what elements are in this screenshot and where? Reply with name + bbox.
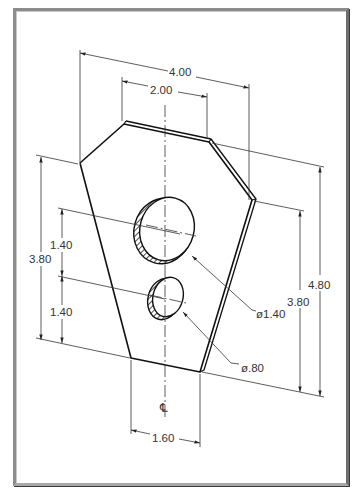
leader-large-hole: ø1.40 [192, 256, 285, 320]
dimension-left-1-40-lower: 1.40 [50, 276, 165, 343]
leader-small-hole: ø.80 [183, 312, 264, 374]
centerline-symbol: ℄ [159, 401, 168, 415]
dim-text-1-60: 1.60 [152, 432, 174, 444]
dim-text-1-40-lower: 1.40 [50, 306, 72, 318]
dim-text-dia-0-80: ø.80 [241, 362, 264, 374]
dimension-left-3-80: 3.80 [29, 155, 130, 358]
dim-text-right-3-80: 3.80 [287, 296, 309, 308]
dim-text-left-3-80: 3.80 [29, 253, 51, 265]
part-drawing: 4.00 2.00 3.80 1.40 1.40 3.80 [0, 0, 359, 497]
dimension-right-4-80: 4.80 [202, 143, 330, 397]
dim-text-dia-1-40: ø1.40 [256, 308, 285, 320]
dim-text-1-40-upper: 1.40 [50, 239, 72, 251]
dim-text-4-80: 4.80 [308, 279, 330, 291]
dim-text-4-00: 4.00 [169, 66, 191, 78]
dim-text-2-00: 2.00 [150, 84, 172, 96]
dimension-4-00: 4.00 [80, 50, 249, 200]
